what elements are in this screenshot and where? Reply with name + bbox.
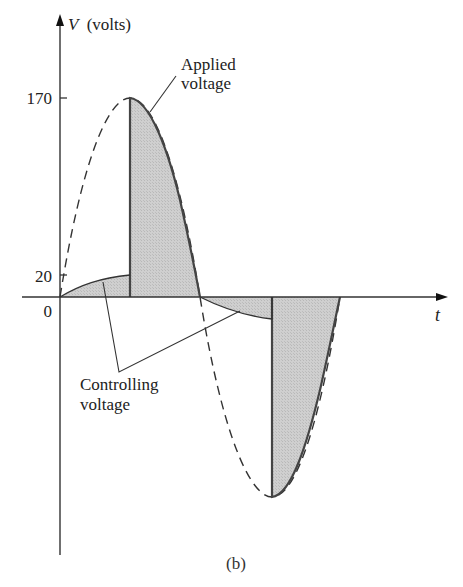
y-axis-unit: (volts)	[87, 15, 131, 34]
applied-voltage-label-line1: Applied	[181, 55, 236, 74]
applied-voltage-label-line2: voltage	[181, 74, 231, 93]
y-axis-arrowhead	[56, 14, 64, 26]
t-axis-arrowhead	[436, 293, 448, 301]
applied-voltage-leader-line	[150, 76, 176, 112]
negative-conduction-region	[272, 297, 340, 497]
figure-caption: (b)	[226, 554, 246, 573]
waveform-diagram: 170 20 0 V (volts) t Applied voltage Con…	[0, 0, 463, 587]
tick-label-170: 170	[27, 89, 53, 108]
controlling-negative-region	[200, 297, 272, 319]
tick-label-0: 0	[44, 302, 53, 321]
x-axis-label: t	[435, 305, 441, 325]
controlling-voltage-label-line1: Controlling	[80, 375, 159, 394]
positive-conduction-region	[130, 98, 200, 297]
y-axis-var: V	[68, 15, 81, 34]
controlling-voltage-label-line2: voltage	[80, 395, 130, 414]
tick-label-20: 20	[35, 267, 52, 286]
controlling-positive-region	[60, 275, 130, 297]
y-axis-label: V (volts)	[68, 15, 131, 34]
